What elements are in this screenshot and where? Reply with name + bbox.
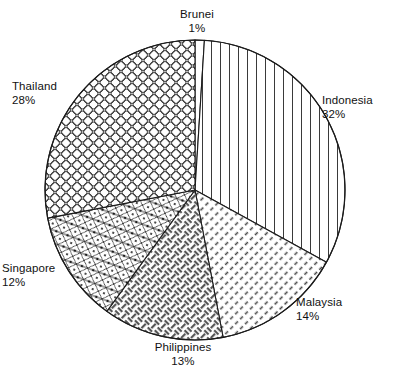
slice-label-indonesia-percent: 32% xyxy=(322,108,392,122)
slice-label-thailand-name: Thailand xyxy=(12,80,90,94)
slice-label-thailand: Thailand 28% xyxy=(12,80,90,107)
slice-label-malaysia-name: Malaysia xyxy=(296,296,374,310)
slice-label-brunei: Brunei 1% xyxy=(155,8,239,35)
pie-slice-thailand[interactable] xyxy=(45,40,195,218)
slice-label-brunei-name: Brunei xyxy=(155,8,239,22)
pie-chart-canvas xyxy=(0,0,393,385)
slice-label-indonesia: Indonesia 32% xyxy=(322,94,392,121)
slice-label-philippines: Philippines 13% xyxy=(128,341,238,368)
slice-label-brunei-percent: 1% xyxy=(155,22,239,36)
slice-label-singapore-percent: 12% xyxy=(2,276,82,290)
pie-chart: Brunei 1% Indonesia 32% Malaysia 14% Phi… xyxy=(0,0,393,385)
slice-label-thailand-percent: 28% xyxy=(12,94,90,108)
slice-label-philippines-name: Philippines xyxy=(128,341,238,355)
slice-label-malaysia: Malaysia 14% xyxy=(296,296,374,323)
slice-label-malaysia-percent: 14% xyxy=(296,310,374,324)
slice-label-philippines-percent: 13% xyxy=(128,355,238,369)
pie-slices xyxy=(45,40,345,340)
slice-label-singapore: Singapore 12% xyxy=(2,262,82,289)
slice-label-singapore-name: Singapore xyxy=(2,262,82,276)
slice-label-indonesia-name: Indonesia xyxy=(322,94,392,108)
